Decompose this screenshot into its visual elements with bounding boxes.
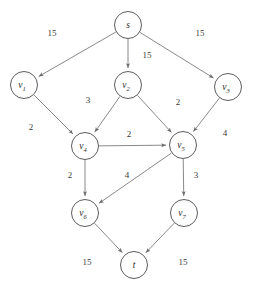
edge-v5-to-v6 [99, 153, 172, 203]
node-v5[interactable]: v5 [170, 132, 197, 159]
edge-v6-to-t [95, 223, 123, 252]
node-label-t: t [133, 260, 136, 270]
edge-capacity-label-v4-v6: 2 [68, 170, 73, 180]
node-s[interactable]: s [115, 12, 142, 39]
edge-v3-to-v5 [193, 98, 219, 132]
edge-v2-to-v5 [137, 95, 171, 132]
node-v2[interactable]: v2 [115, 72, 142, 99]
edge-capacity-label-v3-v5: 4 [223, 128, 228, 138]
graph-canvas: 151515232422431515 sv1v2v3v4v5v6v7t [0, 0, 254, 289]
edge-capacity-label-v6-t: 15 [83, 257, 93, 267]
edge-capacity-label-v1-v4: 2 [29, 122, 34, 132]
edge-capacity-label-v7-t: 15 [179, 257, 189, 267]
node-v4[interactable]: v4 [72, 133, 99, 160]
node-v6[interactable]: v6 [72, 200, 99, 227]
nodes-layer: sv1v2v3v4v5v6v7t [11, 12, 242, 279]
node-v7[interactable]: v7 [171, 200, 198, 227]
node-label-base-s: s [126, 20, 130, 30]
edge-capacity-label-v4-v5: 2 [127, 129, 132, 139]
node-label-base-t: t [133, 260, 136, 270]
node-v1[interactable]: v1 [11, 72, 38, 99]
edge-v5-to-v7 [183, 159, 184, 196]
edge-capacity-label-s-v1: 15 [48, 28, 58, 38]
edge-capacity-label-s-v3: 15 [196, 28, 206, 38]
node-label-s: s [126, 20, 130, 30]
node-t[interactable]: t [121, 252, 148, 279]
edge-s-to-v1 [39, 32, 116, 77]
edge-v4-to-v5 [99, 145, 166, 146]
edge-v7-to-t [146, 223, 175, 253]
flow-network-diagram: 151515232422431515 sv1v2v3v4v5v6v7t [0, 0, 254, 289]
edge-capacity-label-v5-v6: 4 [125, 170, 130, 180]
edge-capacity-label-v2-v4: 3 [86, 95, 91, 105]
node-v3[interactable]: v3 [215, 74, 242, 101]
edge-v2-to-v4 [95, 96, 120, 132]
edge-v1-to-v4 [34, 95, 73, 134]
node-label-sub-v1: 1 [22, 84, 25, 91]
edge-capacity-label-v2-v5: 2 [176, 97, 181, 107]
edge-capacity-label-v5-v7: 3 [194, 170, 199, 180]
edge-capacity-label-s-v2: 15 [143, 50, 153, 60]
